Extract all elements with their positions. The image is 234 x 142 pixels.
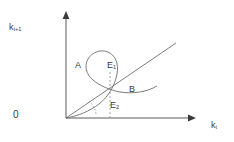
point-label-e1: E1 bbox=[107, 61, 116, 70]
y-axis-label-sub: t+1 bbox=[14, 26, 22, 32]
forty-five-degree-line bbox=[66, 43, 176, 118]
point-label-e1-sub: 1 bbox=[113, 64, 116, 70]
y-axis-label: kt+1 bbox=[9, 23, 21, 32]
point-label-e2: E2 bbox=[110, 101, 119, 110]
diagram-svg bbox=[0, 0, 234, 142]
point-label-b: B bbox=[129, 85, 135, 94]
angle-arc-marker bbox=[89, 101, 96, 114]
x-axis-label: kt bbox=[211, 121, 217, 130]
point-label-a-base: A bbox=[75, 60, 81, 70]
x-axis-label-sub: t bbox=[216, 124, 218, 130]
point-label-e2-sub: 2 bbox=[116, 104, 119, 110]
point-label-b-base: B bbox=[129, 84, 135, 94]
arrow-up-icon bbox=[63, 11, 70, 19]
y-axis-label-base: k bbox=[9, 22, 14, 32]
arrow-right-icon bbox=[188, 115, 196, 122]
point-label-a: A bbox=[75, 61, 81, 70]
origin-label: 0 bbox=[13, 110, 19, 120]
x-axis-label-base: k bbox=[211, 120, 216, 130]
figure-canvas: kt+1 kt 0 A E1 B E2 bbox=[0, 0, 234, 142]
